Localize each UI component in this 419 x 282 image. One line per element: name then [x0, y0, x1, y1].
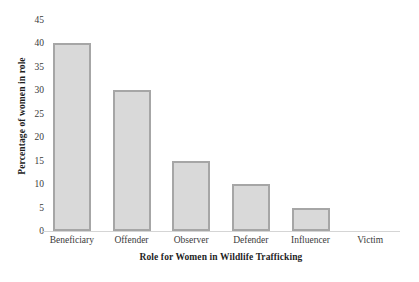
x-axis-tick-label: Victim	[340, 234, 400, 247]
x-axis-tick-label: Defender	[221, 234, 281, 247]
bar-defender	[232, 184, 270, 231]
x-axis-tick-labels: BeneficiaryOffenderObserverDefenderInflu…	[42, 234, 400, 248]
bar-offender	[113, 90, 151, 231]
x-axis-tick-label: Offender	[102, 234, 162, 247]
bar-observer	[172, 161, 210, 231]
x-axis-tick-label: Beneficiary	[42, 234, 102, 247]
bar-beneficiary	[53, 43, 91, 231]
plot-area	[42, 20, 400, 231]
bar-chart: Percentage of women in role 454035302520…	[0, 0, 419, 282]
bar-influencer	[292, 208, 330, 231]
x-axis-line	[42, 231, 400, 232]
x-axis-title: Role for Women in Wildlife Trafficking	[42, 252, 400, 262]
x-axis-tick-label: Observer	[161, 234, 221, 247]
x-axis-tick-label: Influencer	[281, 234, 341, 247]
